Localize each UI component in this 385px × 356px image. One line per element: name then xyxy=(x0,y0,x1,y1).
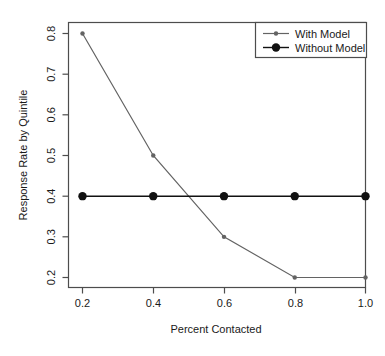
data-point-marker xyxy=(293,275,297,279)
x-tick-label: 0.6 xyxy=(217,297,232,309)
y-axis-title: Response Rate by Quintile xyxy=(17,90,29,221)
data-point-marker xyxy=(80,31,84,35)
x-axis-ticks xyxy=(83,288,366,294)
legend-label: With Model xyxy=(295,28,350,40)
legend-marker-icon xyxy=(272,43,280,51)
data-point-marker xyxy=(78,192,86,200)
series-with-model xyxy=(80,31,367,279)
data-series-layer xyxy=(78,31,369,279)
data-point-marker xyxy=(222,235,226,239)
x-tick-label-group: 0.2 0.4 0.6 0.8 1.0 xyxy=(75,297,373,309)
x-axis-title: Percent Contacted xyxy=(170,323,261,335)
plot-frame xyxy=(69,23,366,288)
y-tick-label: 0.3 xyxy=(45,229,57,244)
data-point-marker xyxy=(291,192,299,200)
chart-container: 0.2 0.4 0.6 0.8 1.0 0.2 0.3 0.4 0.5 0.6 … xyxy=(0,0,385,356)
series-without-model xyxy=(78,192,369,200)
legend-label: Without Model xyxy=(295,42,365,54)
chart-legend[interactable]: With Model Without Model xyxy=(256,23,367,58)
x-tick-label: 0.4 xyxy=(146,297,161,309)
y-axis-ticks xyxy=(63,34,69,278)
y-tick-label: 0.2 xyxy=(45,270,57,285)
x-tick-label: 1.0 xyxy=(358,297,373,309)
line-chart: 0.2 0.4 0.6 0.8 1.0 0.2 0.3 0.4 0.5 0.6 … xyxy=(0,0,385,356)
x-tick-label: 0.8 xyxy=(288,297,303,309)
y-tick-label: 0.8 xyxy=(45,26,57,41)
x-tick-label: 0.2 xyxy=(75,297,90,309)
legend-marker-icon xyxy=(274,31,278,35)
data-point-marker xyxy=(151,153,155,157)
y-tick-label: 0.4 xyxy=(45,189,57,204)
y-tick-label: 0.7 xyxy=(45,67,57,82)
y-tick-label: 0.6 xyxy=(45,107,57,122)
series-line xyxy=(83,34,366,278)
data-point-marker xyxy=(149,192,157,200)
y-tick-label-group: 0.2 0.3 0.4 0.5 0.6 0.7 0.8 xyxy=(45,26,57,285)
y-tick-label: 0.5 xyxy=(45,148,57,163)
data-point-marker xyxy=(361,192,369,200)
data-point-marker xyxy=(220,192,228,200)
data-point-marker xyxy=(363,275,367,279)
